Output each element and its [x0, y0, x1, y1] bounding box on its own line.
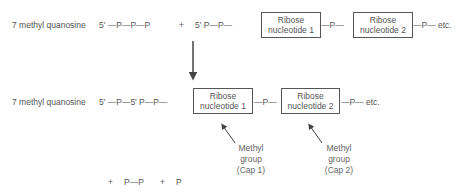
cap1-label: Methyl group (Cap 1)	[233, 143, 269, 176]
byproduct-plus-1: +	[108, 178, 113, 187]
cap2-pointer-arrow-icon	[310, 126, 322, 143]
row2-chain: 5' —P—5' P—P—	[99, 98, 167, 107]
byproduct-pyrophosphate: P—P	[124, 178, 144, 187]
cap2-label: Methyl group (Cap 2)	[321, 143, 357, 176]
byproduct-plus-2: +	[160, 178, 165, 187]
row2-tail: —P— etc.	[341, 98, 380, 107]
byproduct-phosphate: P	[176, 178, 182, 187]
row2-ribose-nucleotide-2: Ribose nucleotide 2	[281, 88, 340, 114]
row2-prefix: 7 methyl quanosine	[12, 98, 86, 107]
row2-link1: —P—	[254, 98, 277, 107]
cap1-pointer-arrow-icon	[223, 126, 235, 143]
row2-ribose-nucleotide-1: Ribose nucleotide 1	[193, 88, 253, 114]
